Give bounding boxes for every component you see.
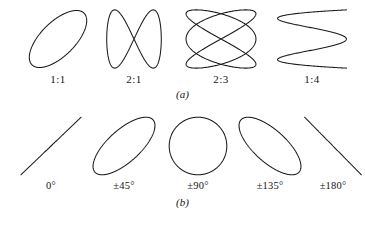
phase-90-curve: [162, 114, 234, 178]
panel-a-frequency-ratios: 1:12:12:31:4 (a): [0, 0, 365, 108]
lissajous-2-1-label: 2:1: [103, 73, 165, 85]
phase-90-path: [169, 117, 227, 175]
lissajous-1-1-curve: [23, 8, 93, 70]
phase-45-label: ±45°: [88, 180, 160, 191]
phase-135-curve: [234, 114, 306, 178]
lissajous-2-1: [103, 8, 165, 70]
phase-45-curve: [88, 114, 160, 178]
phase-180: [300, 114, 365, 178]
phase-90: [162, 114, 234, 178]
phase-180-label: ±180°: [300, 180, 365, 191]
lissajous-figure: 1:12:12:31:4 (a) 0°±45°±90°±135°±180° (b…: [0, 0, 365, 226]
phase-180-curve: [300, 114, 365, 178]
lissajous-2-1-path: [107, 10, 162, 68]
panel-b-caption: (b): [0, 196, 365, 208]
lissajous-1-1-path: [29, 10, 86, 67]
lissajous-1-4-path: [278, 10, 347, 68]
panel-a-caption: (a): [0, 88, 365, 100]
lissajous-1-4: [275, 8, 349, 70]
phase-135-label: ±135°: [234, 180, 306, 191]
phase-45-path: [93, 117, 155, 175]
lissajous-2-1-curve: [103, 8, 165, 70]
lissajous-1-4-label: 1:4: [275, 73, 349, 85]
phase-0-label: 0°: [16, 180, 86, 191]
phase-45: [88, 114, 160, 178]
panel-b-phase-differences: 0°±45°±90°±135°±180° (b): [0, 108, 365, 226]
lissajous-2-3: [183, 8, 259, 70]
phase-0-path: [21, 117, 81, 175]
lissajous-1-1: [23, 8, 93, 70]
phase-0: [16, 114, 86, 178]
phase-0-curve: [16, 114, 86, 178]
phase-90-label: ±90°: [162, 180, 234, 191]
lissajous-1-1-label: 1:1: [23, 73, 93, 85]
phase-180-path: [305, 117, 362, 175]
lissajous-2-3-label: 2:3: [183, 73, 259, 85]
lissajous-2-3-path: [186, 10, 256, 68]
lissajous-2-3-curve: [183, 8, 259, 70]
phase-135-path: [239, 117, 301, 175]
lissajous-1-4-curve: [275, 8, 349, 70]
phase-135: [234, 114, 306, 178]
